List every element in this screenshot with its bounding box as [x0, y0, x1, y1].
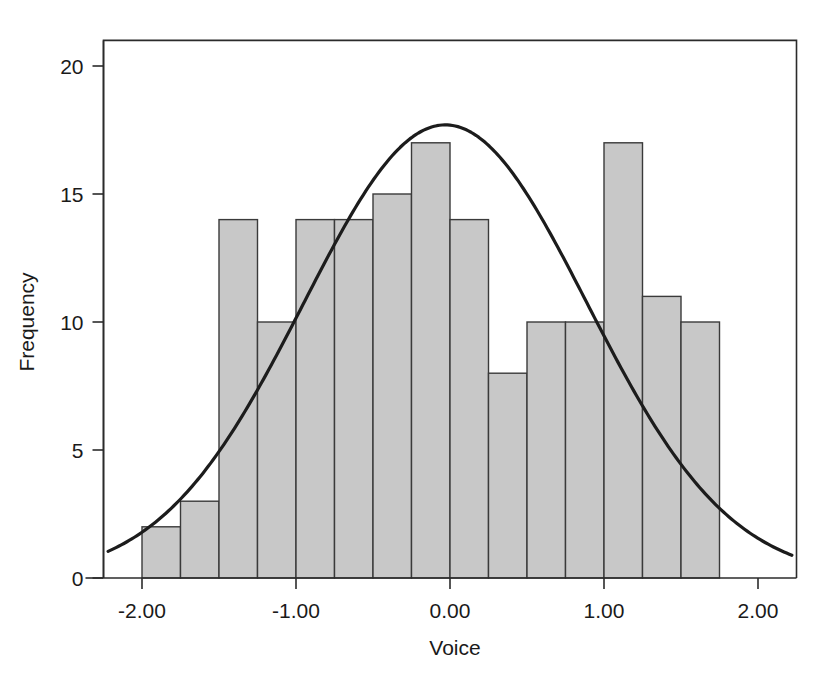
histogram-bar	[681, 322, 720, 578]
y-tick-label: 15	[60, 183, 83, 206]
histogram-bar	[604, 143, 643, 578]
x-axis-label: Voice	[429, 636, 480, 659]
histogram-bar	[412, 143, 451, 578]
y-tick-label: 5	[72, 439, 84, 462]
histogram-bar	[258, 322, 297, 578]
x-tick-label: -1.00	[272, 599, 320, 622]
y-tick-label: 10	[60, 311, 83, 334]
y-tick-label: 20	[60, 55, 83, 78]
x-tick-label: 1.00	[584, 599, 625, 622]
histogram-bar	[527, 322, 566, 578]
histogram-bar	[181, 501, 220, 578]
x-tick-label: 2.00	[738, 599, 779, 622]
histogram-bar	[142, 527, 181, 578]
y-axis-ticks: 05101520	[60, 55, 103, 590]
histogram-bar	[373, 194, 412, 578]
y-axis-label: Frequency	[15, 272, 38, 372]
histogram-bar	[335, 220, 374, 578]
histogram-bar	[450, 220, 489, 578]
x-tick-label: 0.00	[430, 599, 471, 622]
histogram-bar	[489, 373, 528, 578]
histogram-figure: -2.00-1.000.001.002.00 05101520 Voice Fr…	[0, 0, 826, 674]
y-tick-label: 0	[72, 567, 84, 590]
histogram-bars	[142, 143, 720, 578]
histogram-bar	[296, 220, 335, 578]
histogram-bar	[566, 322, 605, 578]
histogram-plot: -2.00-1.000.001.002.00 05101520 Voice Fr…	[0, 0, 826, 674]
x-axis-ticks: -2.00-1.000.001.002.00	[118, 578, 778, 622]
x-tick-label: -2.00	[118, 599, 166, 622]
